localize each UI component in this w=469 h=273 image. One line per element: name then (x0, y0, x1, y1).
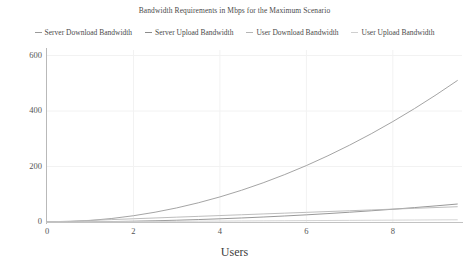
y-axis-tick-label: 200 (8, 161, 42, 171)
y-axis-tick-label: 600 (8, 50, 42, 60)
y-axis-tick-label: 0 (8, 216, 42, 226)
x-axis-tick-label: 6 (296, 226, 316, 236)
legend-swatch-icon (351, 32, 358, 33)
plot-area (47, 50, 462, 222)
x-axis-tick-label: 4 (210, 226, 230, 236)
x-axis-spine (46, 222, 463, 223)
legend-item-user-download[interactable]: User Download Bandwidth (246, 28, 338, 37)
legend-label: User Download Bandwidth (256, 28, 338, 37)
legend-swatch-icon (145, 32, 152, 33)
legend-label: User Upload Bandwidth (361, 28, 434, 37)
gridlines (47, 50, 462, 222)
chart-legend: Server Download Bandwidth Server Upload … (0, 28, 469, 37)
legend-label: Server Upload Bandwidth (155, 28, 233, 37)
x-axis-tick-label: 8 (383, 226, 403, 236)
chart-figure: Bandwidth Requirements in Mbps for the M… (0, 0, 469, 273)
y-axis-tick-label: 400 (8, 105, 42, 115)
x-axis-tick-label: 2 (123, 226, 143, 236)
legend-item-user-upload[interactable]: User Upload Bandwidth (351, 28, 434, 37)
series-line (47, 80, 458, 222)
chart-title: Bandwidth Requirements in Mbps for the M… (0, 6, 469, 15)
plot-svg (47, 50, 462, 222)
legend-item-server-download[interactable]: Server Download Bandwidth (35, 28, 132, 37)
x-axis-tick-label: 0 (37, 226, 57, 236)
legend-swatch-icon (246, 32, 253, 33)
legend-item-server-upload[interactable]: Server Upload Bandwidth (145, 28, 233, 37)
legend-label: Server Download Bandwidth (45, 28, 132, 37)
series-lines (47, 80, 458, 222)
x-axis-title: Users (0, 245, 469, 260)
